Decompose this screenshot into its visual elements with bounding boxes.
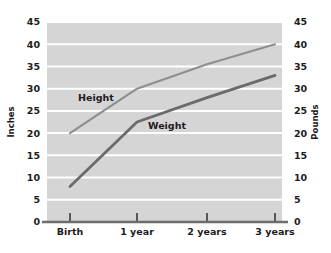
right-tick-label: 0	[294, 216, 301, 227]
series-label-height: Height	[78, 92, 114, 103]
left-axis-title: Inches	[6, 106, 16, 137]
left-axis-ticks: 454035302520151050	[27, 16, 41, 227]
left-tick-label: 10	[27, 172, 41, 183]
left-tick-label: 15	[27, 150, 40, 161]
x-axis-category-labels: Birth1 year2 years3 years	[57, 226, 295, 237]
right-tick-label: 15	[294, 150, 307, 161]
left-tick-label: 30	[27, 83, 41, 94]
left-tick-label: 5	[33, 194, 40, 205]
growth-chart: 454035302520151050 454035302520151050 Bi…	[0, 0, 331, 253]
left-tick-label: 40	[27, 39, 41, 50]
right-tick-label: 10	[294, 172, 308, 183]
left-tick-label: 35	[27, 61, 40, 72]
left-tick-label: 25	[27, 105, 40, 116]
x-category-label: 3 years	[255, 226, 295, 237]
left-tick-label: 0	[33, 216, 40, 227]
x-category-label: 1 year	[120, 226, 154, 237]
right-tick-label: 30	[294, 83, 308, 94]
x-category-label: 2 years	[187, 226, 227, 237]
right-tick-label: 45	[294, 16, 307, 27]
right-tick-label: 20	[294, 128, 308, 139]
right-tick-label: 35	[294, 61, 307, 72]
right-axis-title: Pounds	[310, 104, 320, 139]
right-tick-label: 25	[294, 105, 307, 116]
right-axis-ticks: 454035302520151050	[294, 16, 308, 227]
chart-canvas: 454035302520151050 454035302520151050 Bi…	[0, 0, 331, 253]
left-tick-label: 45	[27, 16, 40, 27]
right-tick-label: 5	[294, 194, 301, 205]
x-category-label: Birth	[57, 226, 84, 237]
right-tick-label: 40	[294, 39, 308, 50]
series-label-weight: Weight	[148, 120, 186, 131]
left-tick-label: 20	[27, 128, 41, 139]
